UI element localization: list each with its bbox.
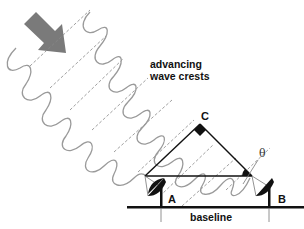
label-antenna-b: B xyxy=(278,193,286,205)
label-antenna-a: A xyxy=(168,193,176,205)
caption-line-1: advancing xyxy=(150,58,210,70)
label-vertex-c: C xyxy=(201,110,209,122)
caption-advancing-wave-crests: advancing wave crests xyxy=(150,58,210,82)
incoming-direction-arrow xyxy=(24,12,66,53)
caption-line-2: wave crests xyxy=(150,70,210,82)
ground-line xyxy=(127,206,304,209)
antenna-b xyxy=(256,178,274,207)
interferometer-diagram xyxy=(0,0,304,229)
label-angle-theta: θ xyxy=(259,147,266,160)
right-angle-marker xyxy=(194,124,206,136)
antenna-a xyxy=(148,178,166,207)
label-baseline: baseline xyxy=(190,211,232,223)
